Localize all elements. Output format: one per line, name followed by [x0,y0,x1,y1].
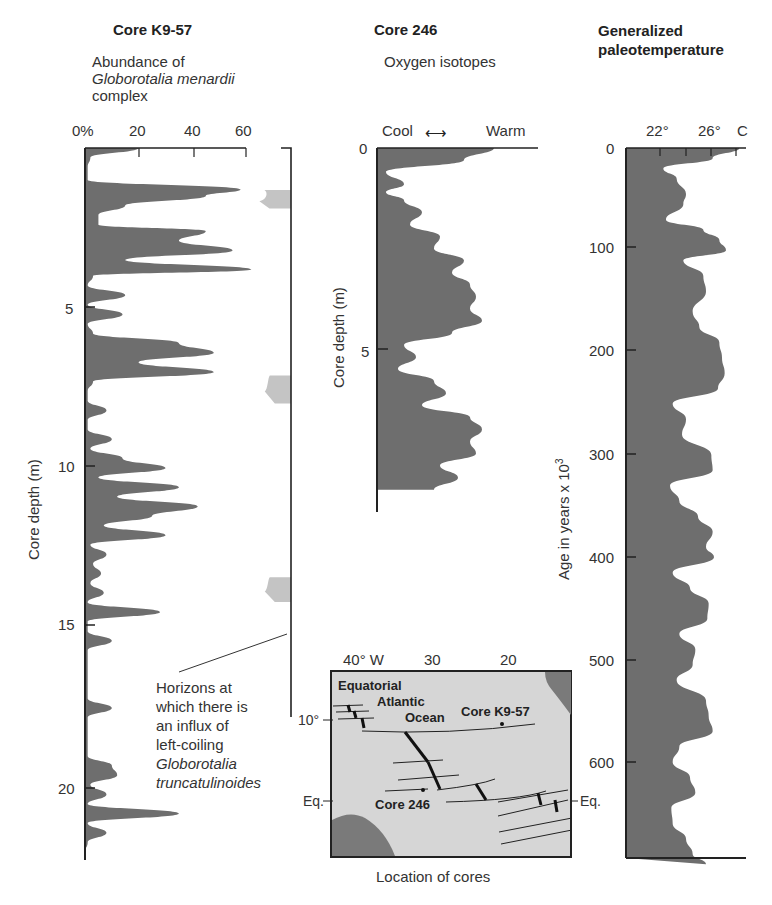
map-lon-30: 30 [424,651,441,668]
map-lat-eq-right: Eq. [580,793,601,809]
map-lat-10: 10° [298,712,319,728]
horizon-band [265,376,291,404]
core-246-marker [421,788,425,792]
map-lon-40w: 40° W [343,651,384,668]
map-lat-eq-left: Eq. [303,793,324,809]
core-k957-marker [500,722,504,726]
horizons-bracket [281,148,291,717]
horizon-band [259,190,291,208]
paleo-plot [626,148,746,864]
map-core-k957-label: Core K9-57 [461,704,530,719]
map-caption: Location of cores [376,868,490,885]
map-ocean-line3: Ocean [405,710,445,725]
horizon-band [265,577,291,602]
map-ocean-line2: Atlantic [377,694,425,709]
truncatulinoides-horizons [259,190,291,602]
k957-abundance-area [85,148,251,852]
map-lon-20: 20 [500,651,517,668]
annotation-leader-line [179,634,287,672]
c246-plot [377,148,538,512]
chart-canvas [0,0,772,905]
core-location-map [323,671,578,857]
k957-plot [85,148,291,860]
paleotemperature-area [626,148,739,864]
map-core-246-label: Core 246 [375,797,430,812]
c246-isotope-area [377,148,494,490]
map-ocean-line1: Equatorial [338,678,402,693]
